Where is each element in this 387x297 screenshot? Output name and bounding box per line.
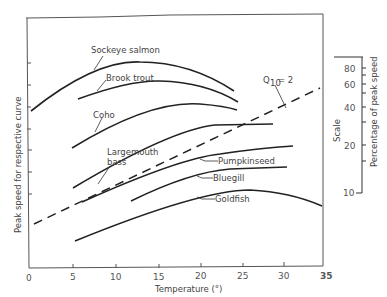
label-brook-trout: Brook trout [106,73,154,83]
svg-text:15: 15 [153,272,164,282]
label-goldfish: Goldfish [215,194,250,204]
svg-text:20: 20 [344,141,356,151]
svg-text:Q: Q [263,75,270,85]
x-axis-label: Temperature (°) [154,284,222,294]
label-largemouth: Largemouth [107,147,159,157]
scale-title: Scale [332,119,342,142]
species-curves [31,62,322,241]
percentage-scale-ticks: 80 60 40 20 10 [343,64,356,198]
plot-frame [26,14,323,268]
label-q10: Q 10 = 2 [263,75,293,88]
label-coho: Coho [93,110,115,120]
scale-axis-label: Percentage of peak speed [369,56,379,167]
label-bass: bass [107,157,127,167]
curve-brook-trout [78,81,238,102]
svg-text:= 2: = 2 [278,75,293,85]
svg-text:20: 20 [195,271,207,281]
svg-text:35: 35 [320,271,333,281]
fish-speed-chart: 0 5 10 15 20 25 30 35 Temperature (°) Pe… [0,0,387,297]
label-sockeye-salmon: Sockeye salmon [91,45,160,55]
svg-text:60: 60 [344,80,356,90]
x-tick-labels: 0 5 10 15 20 25 30 35 [26,271,333,283]
svg-text:5: 5 [70,272,76,282]
svg-text:25: 25 [237,271,248,281]
svg-text:10: 10 [343,188,355,198]
svg-text:80: 80 [344,64,356,74]
svg-text:10: 10 [110,272,122,282]
label-pumpkinseed: Pumpkinseed [218,156,275,166]
svg-text:0: 0 [26,273,32,283]
svg-text:30: 30 [278,271,290,281]
label-bluegill: Bluegill [213,173,244,183]
y-axis-label: Peak speed for respective curve [13,97,23,233]
svg-text:40: 40 [344,103,356,113]
